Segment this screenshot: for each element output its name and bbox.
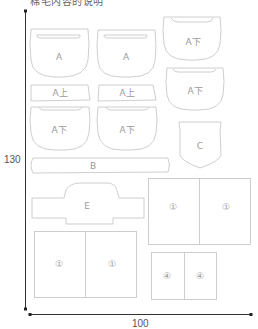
piece-label: A下 (119, 125, 134, 135)
piece-label: ④ (163, 271, 171, 281)
piece-panel-4 (152, 253, 217, 300)
piece-panel-1-left (35, 232, 137, 298)
piece-label: ① (169, 202, 177, 212)
piece-label: A (123, 52, 130, 62)
axis-endpoint-dot (29, 313, 32, 316)
piece-label: B (90, 161, 96, 171)
piece-label: A (56, 52, 63, 62)
piece-label: A下 (187, 86, 202, 96)
pattern-diagram: A A A下 A下 A上 A上 A下 A下 C B E ① ① ① ① ④ ④ (0, 0, 258, 329)
piece-label: A下 (51, 125, 66, 135)
piece-label: E (84, 201, 90, 211)
piece-label: A上 (119, 88, 134, 98)
piece-label: C (197, 141, 203, 151)
piece-label: ④ (196, 271, 204, 281)
layout-title: 棉毛内容的说明 (30, 0, 104, 8)
piece-label: A下 (185, 37, 200, 47)
piece-label: ① (222, 202, 230, 212)
height-dimension-label: 130 (4, 154, 21, 165)
axis-endpoint-dot (24, 10, 27, 13)
piece-panel-1-right (149, 179, 251, 245)
pattern-layout: 棉毛内容的说明 (0, 0, 258, 329)
piece-label: ① (55, 259, 63, 269)
axis-endpoint-dot (24, 308, 27, 311)
axis-endpoint-dot (250, 313, 253, 316)
width-dimension-label: 100 (132, 318, 149, 329)
piece-label: A上 (52, 88, 67, 98)
piece-label: ① (108, 259, 116, 269)
piece-b (31, 158, 170, 173)
